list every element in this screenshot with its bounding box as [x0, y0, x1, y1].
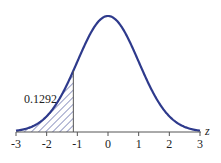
svg-text:3: 3 — [197, 137, 203, 151]
normal-curve-chart: -3-2-10123 z 0.1292 — [0, 0, 221, 163]
area-annotation: 0.1292 — [24, 92, 57, 106]
x-axis-label: z — [204, 124, 210, 138]
svg-text:0: 0 — [105, 137, 111, 151]
svg-text:2: 2 — [166, 137, 172, 151]
svg-text:-3: -3 — [11, 137, 21, 151]
density-curve — [16, 16, 200, 131]
svg-text:1: 1 — [136, 137, 142, 151]
x-axis-ticks: -3-2-10123 — [11, 132, 203, 151]
svg-text:-1: -1 — [72, 137, 82, 151]
svg-text:-2: -2 — [42, 137, 52, 151]
